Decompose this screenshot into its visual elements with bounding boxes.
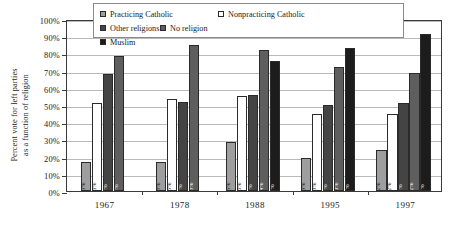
bar: 15%	[226, 142, 236, 191]
bar-data-label: 4%	[398, 184, 403, 191]
bar-data-label: 18%	[156, 182, 161, 191]
y-axis-tick-label: 90%	[20, 34, 60, 43]
bar: 13%	[189, 45, 199, 191]
y-axis-tick	[62, 107, 67, 108]
bar-data-label: 1%	[270, 184, 275, 191]
bar: 4%	[398, 103, 408, 191]
bar: 6%	[114, 56, 124, 191]
x-axis-tick-label: 1997	[396, 200, 416, 210]
y-axis-tick-label: 10%	[20, 171, 60, 180]
x-axis-tick-label: 1988	[245, 200, 265, 210]
legend-item-label: Muslim	[110, 38, 135, 47]
bar: 13%	[301, 158, 311, 191]
bar-data-label: 4%	[178, 184, 183, 191]
bar-data-label: 13%	[189, 182, 194, 191]
bar-data-label: 1%	[345, 184, 350, 191]
bar-data-label: 66%	[92, 182, 97, 191]
y-axis-tick-label: 50%	[20, 103, 60, 112]
bar-data-label: 63%	[312, 182, 317, 191]
legend-swatch-icon	[100, 25, 106, 31]
y-axis-tick-label: 100%	[20, 17, 60, 26]
y-axis-title-line-1: Percent vote for left parties	[9, 68, 20, 161]
bar: 25%	[81, 162, 91, 191]
bar: 62%	[387, 114, 397, 191]
x-axis-tick-label: 1978	[170, 200, 190, 210]
y-axis-tick-label: 40%	[20, 120, 60, 129]
bar: 4%	[323, 105, 333, 191]
y-axis-tick-label: 80%	[20, 51, 60, 60]
bar: 1%	[420, 34, 430, 191]
legend-item[interactable]: Muslim	[100, 35, 230, 49]
bar: 66%	[92, 103, 102, 191]
bar-data-label: 14%	[259, 182, 264, 191]
legend-item[interactable]: No religion	[160, 21, 278, 35]
legend-item[interactable]: Other religions	[100, 21, 160, 35]
bar-data-label: 25%	[81, 182, 86, 191]
y-axis-tick-label: 20%	[20, 154, 60, 163]
bar-data-label: 65%	[167, 182, 172, 191]
bar-chart: Percent vote for left parties as a funct…	[0, 0, 450, 229]
legend-swatch-icon	[218, 11, 224, 17]
bar-data-label: 15%	[226, 182, 231, 191]
legend-item-label: Nonpracticing Catholic	[228, 10, 305, 19]
bar: 20%	[334, 67, 344, 191]
y-axis-tick-label: 0%	[20, 189, 60, 198]
y-axis-tick	[62, 159, 67, 160]
bar: 4%	[178, 102, 188, 191]
bar-data-label: 20%	[334, 182, 339, 191]
y-axis-tick	[62, 141, 67, 142]
y-axis-tick	[62, 90, 67, 91]
bar: 3%	[103, 74, 113, 191]
bar: 4%	[248, 95, 258, 191]
y-axis-tick	[62, 176, 67, 177]
bar: 66%	[237, 96, 247, 191]
chart-legend: Practicing CatholicNonpracticing Catholi…	[93, 3, 404, 38]
bar: 1%	[345, 48, 355, 191]
bar: 22%	[409, 73, 419, 191]
bar: 12%	[376, 150, 386, 191]
bar: 63%	[312, 114, 322, 191]
x-axis-tick	[368, 191, 369, 195]
bar-data-label: 22%	[409, 182, 414, 191]
bar-data-label: 62%	[387, 182, 392, 191]
legend-item[interactable]: Nonpracticing Catholic	[218, 7, 348, 21]
y-axis-tick-label: 60%	[20, 85, 60, 94]
legend-swatch-icon	[100, 39, 106, 45]
bar: 65%	[167, 99, 177, 191]
y-axis-tick	[62, 21, 67, 22]
y-axis-tick	[62, 55, 67, 56]
bar: 14%	[259, 50, 269, 191]
bar-data-label: 1%	[420, 184, 425, 191]
legend-item-label: Other religions	[110, 24, 159, 33]
y-axis-tick	[62, 193, 67, 194]
bar-data-label: 3%	[103, 184, 108, 191]
bar-data-label: 4%	[248, 184, 253, 191]
bar: 1%	[270, 61, 280, 191]
x-axis-tick	[293, 191, 294, 195]
x-axis-tick	[142, 191, 143, 195]
bar-data-label: 4%	[323, 184, 328, 191]
y-axis-tick	[62, 73, 67, 74]
y-axis-tick-label: 30%	[20, 137, 60, 146]
bar-data-label: 6%	[114, 184, 119, 191]
legend-swatch-icon	[160, 25, 166, 31]
legend-swatch-icon	[100, 11, 106, 17]
x-axis-tick-label: 1995	[320, 200, 340, 210]
y-axis-tick	[62, 38, 67, 39]
bar-data-label: 66%	[237, 182, 242, 191]
bar-data-label: 12%	[376, 182, 381, 191]
y-axis-tick-label: 70%	[20, 68, 60, 77]
x-axis-tick	[217, 191, 218, 195]
legend-item-label: No religion	[170, 24, 208, 33]
y-axis-tick	[62, 124, 67, 125]
legend-item-label: Practicing Catholic	[110, 10, 173, 19]
x-axis-tick-label: 1967	[95, 200, 115, 210]
bar-data-label: 13%	[301, 182, 306, 191]
legend-item[interactable]: Practicing Catholic	[100, 7, 218, 21]
bar: 18%	[156, 162, 166, 191]
